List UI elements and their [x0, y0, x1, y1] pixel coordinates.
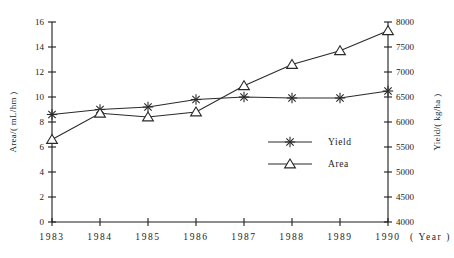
left-axis-tick-label: 6 — [40, 142, 45, 152]
left-axis-tick-label: 16 — [35, 17, 45, 27]
right-axis-tick-label: 8000 — [396, 17, 415, 27]
line-chart-svg: 0246810121416 40004500500055006000650070… — [0, 0, 454, 258]
data-point-area — [47, 135, 58, 144]
left-axis-tick-label: 2 — [40, 192, 45, 202]
left-axis: 0246810121416 — [35, 17, 56, 227]
data-point-area — [191, 107, 202, 116]
x-axis-tick-label: 1984 — [87, 232, 112, 242]
chart-legend: YieldArea — [268, 137, 352, 170]
right-axis: 400045005000550060006500700075008000 — [384, 17, 415, 227]
series-line-area — [52, 31, 388, 140]
right-axis-title: Yield/( kg/ha ) — [432, 94, 442, 151]
series-line-yield — [52, 91, 388, 115]
x-axis-tick-label: 1988 — [279, 232, 304, 242]
x-axis-tick-label: 1986 — [183, 232, 208, 242]
data-point-area — [239, 81, 250, 90]
right-axis-tick-label: 4000 — [396, 217, 415, 227]
left-axis-tick-label: 8 — [40, 117, 45, 127]
right-axis-tick-label: 5500 — [396, 142, 415, 152]
right-axis-tick-label: 6000 — [396, 117, 415, 127]
left-axis-tick-label: 12 — [35, 67, 44, 77]
right-axis-tick-label: 6500 — [396, 92, 415, 102]
chart-container: 0246810121416 40004500500055006000650070… — [0, 0, 454, 258]
left-axis-tick-label: 0 — [40, 217, 45, 227]
axis-titles: Area/( mL/hm )Yield/( kg/ha ) — [8, 91, 442, 152]
data-point-area — [335, 46, 346, 55]
x-axis-tick-label: 1983 — [39, 232, 64, 242]
data-point-area — [383, 26, 394, 35]
legend-label-area: Area — [328, 159, 349, 169]
left-axis-tick-label: 10 — [35, 92, 45, 102]
right-axis-tick-label: 7000 — [396, 67, 415, 77]
right-axis-tick-label: 5000 — [396, 167, 415, 177]
left-axis-title: Area/( mL/hm ) — [8, 91, 18, 152]
left-axis-tick-label: 4 — [40, 167, 45, 177]
right-axis-tick-label: 7500 — [396, 42, 415, 52]
right-axis-tick-label: 4500 — [396, 192, 415, 202]
x-axis-tick-label: 1987 — [231, 232, 256, 242]
x-axis-tick-label: 1990 — [375, 232, 400, 242]
x-axis-tick-label: 1985 — [135, 232, 160, 242]
data-series-group — [47, 26, 394, 144]
legend-label-yield: Yield — [328, 137, 352, 147]
x-axis-tick-label: 1989 — [327, 232, 352, 242]
x-axis-title: ( Year ) — [410, 232, 451, 243]
left-axis-tick-label: 14 — [35, 42, 45, 52]
